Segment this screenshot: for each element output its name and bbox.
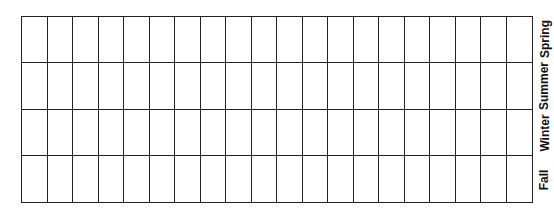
grid-cell	[201, 156, 227, 202]
grid-cell	[99, 63, 125, 109]
seasonal-grid	[21, 16, 533, 203]
grid-cell	[48, 110, 74, 156]
grid-cell	[405, 156, 431, 202]
grid-cell	[252, 156, 278, 202]
grid-cell	[175, 63, 201, 109]
grid-cell	[303, 156, 329, 202]
grid-cell	[22, 156, 48, 202]
grid-cell	[277, 156, 303, 202]
grid-cell	[201, 17, 227, 63]
grid-cell	[124, 63, 150, 109]
row-label-spring: Spring	[535, 16, 554, 63]
row-label-winter: Winter	[535, 110, 554, 157]
grid-cell	[22, 63, 48, 109]
grid-cell	[405, 63, 431, 109]
grid-cell	[481, 17, 507, 63]
grid-cell	[124, 156, 150, 202]
grid-cell	[252, 110, 278, 156]
grid-cell	[73, 156, 99, 202]
grid-cell	[73, 63, 99, 109]
grid-cell	[328, 110, 354, 156]
grid-cell	[507, 156, 533, 202]
grid-cell	[175, 156, 201, 202]
grid-cell	[481, 156, 507, 202]
grid-cell	[226, 110, 252, 156]
grid-cell	[73, 17, 99, 63]
grid-cell	[328, 156, 354, 202]
grid-cell	[303, 17, 329, 63]
grid-cell	[226, 17, 252, 63]
row-label-text: Fall	[538, 169, 552, 190]
grid-cell	[456, 156, 482, 202]
grid-cell	[430, 156, 456, 202]
grid-cell	[328, 17, 354, 63]
row-label-text: Winter	[538, 114, 552, 151]
grid-cell	[456, 110, 482, 156]
grid-cell	[150, 63, 176, 109]
grid-cell	[507, 110, 533, 156]
grid-cell	[252, 63, 278, 109]
grid-cell	[379, 17, 405, 63]
grid-cell	[201, 63, 227, 109]
grid-cell	[277, 17, 303, 63]
grid-cell	[481, 63, 507, 109]
grid-cell	[379, 110, 405, 156]
row-label-fall: Fall	[535, 156, 554, 203]
grid-cell	[226, 63, 252, 109]
grid-cell	[507, 17, 533, 63]
grid-cell	[379, 63, 405, 109]
grid-cell	[73, 110, 99, 156]
grid-cell	[48, 63, 74, 109]
grid-cell	[430, 17, 456, 63]
grid-cell	[226, 156, 252, 202]
row-label-summer: Summer	[535, 63, 554, 110]
grid-cell	[124, 110, 150, 156]
grid-cell	[430, 110, 456, 156]
grid-cell	[150, 156, 176, 202]
grid-cell	[22, 110, 48, 156]
grid-cell	[481, 110, 507, 156]
grid-cell	[99, 17, 125, 63]
row-label-text: Summer	[538, 62, 552, 110]
row-label-text: Spring	[538, 20, 552, 58]
grid-cell	[430, 63, 456, 109]
grid-cell	[379, 156, 405, 202]
grid-cell	[277, 110, 303, 156]
grid-cell	[201, 110, 227, 156]
grid-cell	[303, 63, 329, 109]
grid-cell	[277, 63, 303, 109]
grid-cell	[354, 63, 380, 109]
grid-cell	[405, 17, 431, 63]
grid-cell	[354, 156, 380, 202]
grid-cell	[354, 110, 380, 156]
grid-cell	[124, 17, 150, 63]
grid-cell	[354, 17, 380, 63]
grid-cell	[405, 110, 431, 156]
grid-cell	[328, 63, 354, 109]
grid-cell	[150, 17, 176, 63]
grid-cell	[48, 17, 74, 63]
grid-cell	[150, 110, 176, 156]
grid-cell	[175, 110, 201, 156]
grid-cell	[99, 156, 125, 202]
grid-cell	[252, 17, 278, 63]
grid-cell	[48, 156, 74, 202]
grid-cell	[456, 17, 482, 63]
grid-cell	[22, 17, 48, 63]
grid-cell	[175, 17, 201, 63]
grid-cell	[99, 110, 125, 156]
row-labels: Spring Summer Winter Fall	[535, 16, 554, 203]
grid-cell	[456, 63, 482, 109]
grid-cell	[507, 63, 533, 109]
grid-cell	[303, 110, 329, 156]
